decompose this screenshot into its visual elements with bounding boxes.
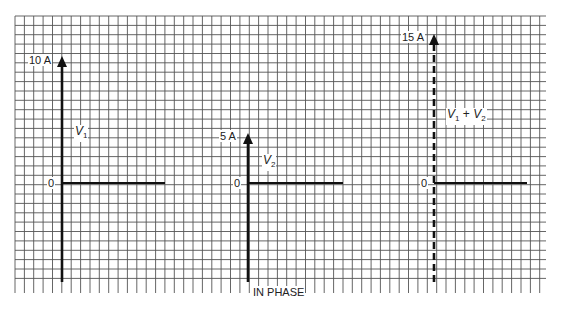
sum-name-main-1: V — [447, 107, 455, 121]
sum-name-main-2: V — [473, 107, 481, 121]
sum-zero-label: 0 — [420, 177, 428, 189]
v2-magnitude-label: 5 A — [219, 130, 237, 142]
v2-arrowhead-icon — [243, 133, 253, 144]
graph-paper-grid — [15, 16, 546, 293]
v2-name-label: V2 — [262, 154, 276, 171]
v2-name-main: V — [263, 153, 271, 167]
v2-name-sub: 2 — [271, 160, 275, 169]
v1-name-label: V1 — [74, 125, 88, 142]
v1-arrowhead-icon — [57, 56, 67, 67]
v2-zero-label: 0 — [233, 177, 241, 189]
v1-name-sub: 1 — [83, 131, 87, 140]
sum-arrowhead-icon — [429, 34, 439, 45]
phasor-v1 — [57, 56, 165, 282]
figure-caption: IN PHASE — [252, 286, 305, 298]
v1-magnitude-label: 10 A — [28, 54, 52, 66]
v1-zero-label: 0 — [47, 177, 55, 189]
v1-name-main: V — [75, 124, 83, 138]
sum-magnitude-label: 15 A — [401, 31, 425, 43]
sum-name-sub-2: 2 — [481, 114, 485, 123]
phasor-sum — [429, 34, 527, 282]
sum-name-label: V1 + V2 — [446, 108, 487, 125]
phasor-diagram — [0, 0, 565, 312]
sum-plus: + — [459, 107, 473, 121]
